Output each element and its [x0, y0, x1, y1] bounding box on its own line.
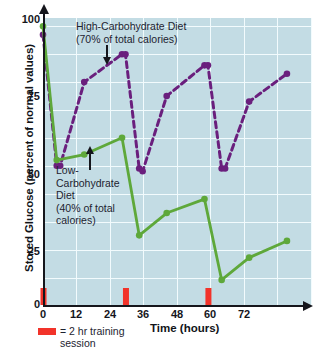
y-axis-arrow — [39, 4, 49, 14]
x-axis-title: Time (hours) — [150, 322, 219, 334]
data-point-marker — [246, 98, 253, 105]
training-session-bar — [123, 288, 129, 305]
annotation-high-carb: High-Carbohydrate Diet (70% of total cal… — [76, 20, 186, 45]
legend-training-session: = 2 hr training session — [38, 325, 125, 349]
x-axis-line — [43, 305, 305, 307]
legend-training-line2: session — [60, 337, 125, 349]
y-tick-label: 100 — [6, 13, 40, 25]
data-point-marker — [119, 135, 126, 142]
x-tick-label: 60 — [195, 308, 225, 320]
data-point-marker — [53, 157, 60, 164]
annotation-high-carb-line1: High-Carbohydrate Diet — [76, 20, 186, 33]
legend-training-text: = 2 hr training session — [60, 325, 125, 349]
annotation-low-carb: Low- Carbohydrate Diet (40% of total cal… — [56, 164, 120, 227]
data-point-marker — [139, 168, 146, 175]
data-point-marker — [205, 62, 212, 69]
y-axis-line — [43, 12, 45, 307]
x-tick-label: 24 — [95, 308, 125, 320]
annotation-arrow-high-carb — [106, 45, 108, 58]
annotation-low-carb-line2: Carbohydrate — [56, 177, 120, 190]
x-tick-label: 0 — [28, 308, 58, 320]
x-tick-label: 48 — [162, 308, 192, 320]
data-point-marker — [136, 232, 143, 239]
data-point-marker — [222, 165, 229, 172]
training-session-swatch — [38, 328, 56, 335]
data-point-marker — [201, 196, 208, 203]
data-point-marker — [163, 210, 170, 217]
training-session-bar — [205, 288, 211, 305]
annotation-arrow-low-carb — [89, 153, 91, 170]
x-tick-label: 72 — [229, 308, 259, 320]
series-line — [43, 26, 287, 280]
data-point-marker — [246, 254, 253, 261]
x-axis-arrow — [303, 301, 313, 311]
legend-training-line1: = 2 hr training — [60, 325, 125, 337]
data-point-marker — [218, 277, 225, 284]
x-tick-label: 12 — [61, 308, 91, 320]
data-point-marker — [284, 238, 291, 245]
annotation-low-carb-line4: (40% of total — [56, 202, 120, 215]
annotation-low-carb-line5: calories) — [56, 214, 120, 227]
annotation-low-carb-line3: Diet — [56, 189, 120, 202]
y-axis-title: Stored Glucose (percent of normal values… — [23, 33, 35, 283]
annotation-high-carb-line2: (70% of total calories) — [76, 33, 186, 46]
data-point-marker — [163, 93, 170, 100]
data-point-marker — [284, 70, 291, 77]
x-tick-label: 36 — [128, 308, 158, 320]
annotation-low-carb-line1: Low- — [56, 164, 120, 177]
data-point-marker — [81, 79, 88, 86]
data-point-marker — [122, 51, 129, 58]
